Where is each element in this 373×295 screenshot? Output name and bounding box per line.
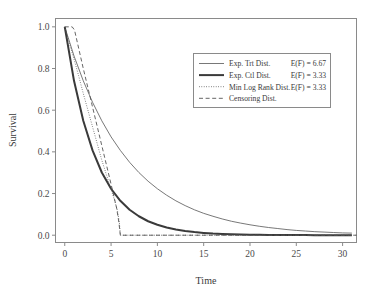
plot-canvas: 0.00.20.40.60.81.0 051015202530 Time Sur… — [0, 0, 373, 295]
y-axis-ticks: 0.00.20.40.60.81.0 — [38, 22, 56, 240]
legend: Exp. Trt Dist.E(F) = 6.67Exp. Ctl Dist.E… — [194, 54, 331, 108]
y-tick-label: 0.2 — [38, 189, 50, 199]
y-tick-label: 0.6 — [38, 106, 50, 116]
legend-label: Censoring Dist. — [229, 94, 277, 103]
legend-value: E(F) = 6.67 — [291, 59, 326, 68]
plot-frame — [56, 19, 357, 243]
x-tick-label: 10 — [153, 249, 163, 259]
x-tick-label: 5 — [109, 249, 114, 259]
y-tick-label: 0.8 — [38, 64, 50, 74]
x-axis-title: Time — [196, 275, 217, 286]
x-tick-label: 15 — [199, 249, 209, 259]
x-axis-ticks: 051015202530 — [62, 243, 347, 259]
legend-value: E(F) = 3.33 — [291, 83, 326, 92]
legend-label: Min Log Rank Dist. — [229, 83, 290, 92]
x-tick-label: 25 — [292, 249, 302, 259]
legend-label: Exp. Ctl Dist. — [229, 71, 271, 80]
y-tick-label: 0.4 — [38, 147, 50, 157]
legend-value: E(F) = 3.33 — [291, 71, 326, 80]
y-axis-title: Survival — [7, 113, 18, 147]
x-tick-label: 0 — [62, 249, 67, 259]
y-tick-label: 0.0 — [38, 231, 50, 241]
y-tick-label: 1.0 — [38, 22, 50, 32]
legend-label: Exp. Trt Dist. — [229, 59, 270, 68]
x-tick-label: 20 — [245, 249, 255, 259]
survival-curve-figure: 0.00.20.40.60.81.0 051015202530 Time Sur… — [0, 0, 373, 295]
x-tick-label: 30 — [338, 249, 348, 259]
